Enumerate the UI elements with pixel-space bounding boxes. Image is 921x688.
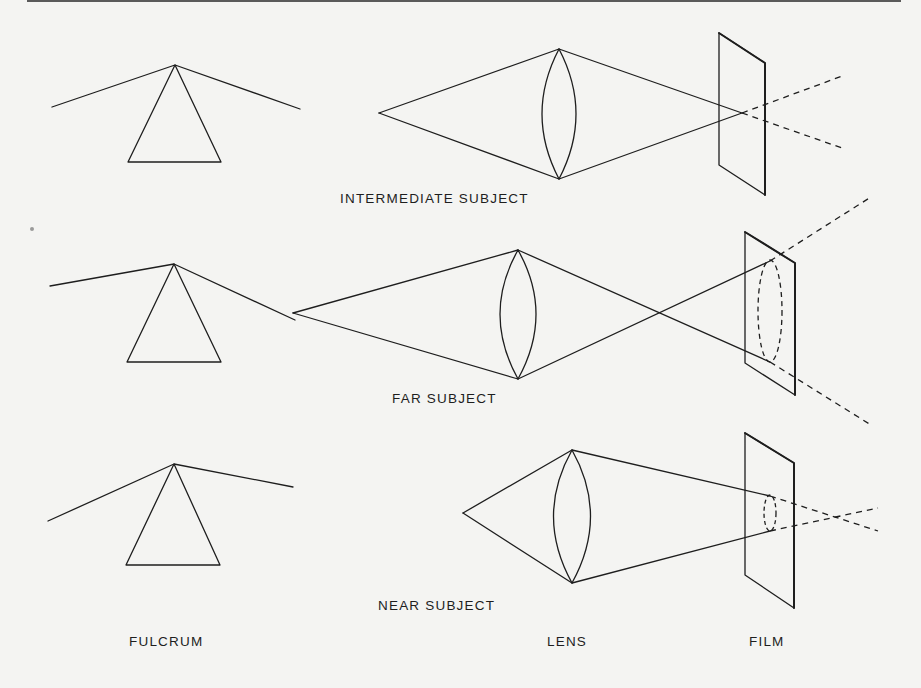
film-plane [719, 33, 765, 195]
ray [463, 450, 572, 513]
ray [293, 250, 518, 313]
caption-far-subject: FAR SUBJECT [392, 391, 497, 406]
ray [518, 261, 770, 379]
extended-ray [742, 113, 845, 149]
caption-intermediate-subject: INTERMEDIATE SUBJECT [340, 191, 529, 206]
label-fulcrum: FULCRUM [129, 634, 203, 649]
film-edge [745, 232, 795, 395]
lens-system-far [293, 197, 871, 425]
speck [30, 227, 34, 231]
lens-system-near [463, 433, 878, 608]
film-edge [719, 33, 765, 195]
image-circle [758, 260, 782, 362]
ray [293, 313, 518, 379]
fulcrum-triangle [128, 65, 221, 162]
film-edge [745, 433, 794, 608]
label-lens: LENS [547, 634, 587, 649]
lens-shape [500, 250, 536, 379]
lens-shape [542, 49, 576, 179]
ray [559, 49, 742, 113]
ray [463, 513, 572, 583]
panel-near [48, 433, 878, 608]
fulcrum-far [50, 264, 295, 362]
lever-beam [52, 65, 300, 109]
ray [559, 113, 742, 179]
fulcrum-near [48, 464, 293, 565]
lens-shape [554, 450, 591, 583]
optics-diagram [0, 0, 921, 688]
image-circle [764, 495, 776, 531]
extended-ray [770, 496, 878, 531]
film-plane [745, 232, 795, 395]
extended-ray [770, 362, 871, 425]
ray [379, 49, 559, 113]
panel-intermediate [52, 33, 845, 195]
lens-system-intermediate [379, 33, 845, 195]
extended-ray [770, 197, 871, 261]
ray [518, 250, 770, 362]
extended-ray [742, 75, 845, 113]
caption-near-subject: NEAR SUBJECT [378, 598, 495, 613]
label-film: FILM [749, 634, 785, 649]
extended-ray [770, 508, 878, 531]
ray [572, 531, 770, 583]
fulcrum-intermediate [52, 65, 300, 162]
ray [572, 450, 770, 496]
lever-beam [50, 264, 295, 320]
ray [379, 113, 559, 179]
